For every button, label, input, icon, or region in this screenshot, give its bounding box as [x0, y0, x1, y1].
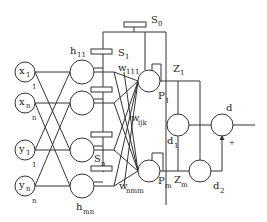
svg-text:n: n — [26, 185, 31, 193]
svg-text:S: S — [94, 153, 101, 164]
svg-text:S: S — [118, 47, 125, 58]
hidden-layer — [70, 60, 94, 198]
svg-text:d: d — [167, 135, 174, 146]
svg-text:x: x — [19, 96, 25, 107]
svg-text:1: 1 — [125, 53, 129, 61]
svg-text:P: P — [158, 90, 165, 101]
switch-box-s2 — [91, 87, 112, 92]
svg-text:x: x — [19, 65, 25, 76]
switch-box-s0 — [124, 22, 146, 27]
svg-text:0: 0 — [158, 20, 162, 28]
svg-text:h: h — [76, 201, 83, 212]
svg-text:1: 1 — [32, 83, 36, 91]
svg-text:n: n — [32, 114, 37, 122]
svg-text:n: n — [32, 197, 37, 205]
svg-text:1: 1 — [165, 97, 169, 105]
node-d2: d 2 — [189, 160, 224, 195]
input-node-xn: x n n — [15, 93, 37, 122]
hidden-label-hmn: h mn — [76, 201, 95, 216]
svg-text:Z: Z — [174, 174, 181, 185]
switch-label-s0: S 0 — [151, 14, 162, 28]
switch-box-s3 — [91, 132, 112, 137]
hidden-node-3 — [70, 138, 94, 162]
hidden-node-1 — [70, 60, 94, 84]
svg-text:S: S — [151, 14, 158, 25]
svg-text:m: m — [181, 181, 188, 189]
svg-text:Z: Z — [173, 63, 180, 74]
weight-label-wijk: w ijk — [131, 112, 147, 127]
svg-text:n: n — [101, 160, 106, 168]
d2-to-d-line — [211, 136, 222, 171]
svg-text:111: 111 — [126, 68, 139, 76]
svg-text:d: d — [213, 180, 220, 191]
z-label-zm: Z m — [174, 174, 188, 189]
weight-label-wnmm: w nmm — [119, 180, 144, 195]
switch-label-s1: S 1 — [118, 47, 129, 61]
input-node-yn: y n n — [15, 176, 37, 205]
svg-text:y: y — [18, 179, 25, 190]
svg-text:nmm: nmm — [126, 187, 144, 195]
svg-text:d: d — [226, 102, 233, 113]
input-node-y1: y 1 1 — [15, 140, 36, 169]
svg-text:2: 2 — [220, 187, 224, 195]
weight-label-w111: w 111 — [118, 62, 139, 76]
node-d-output: d — [211, 102, 233, 136]
svg-text:m: m — [165, 182, 172, 190]
output-node-p1: P 1 — [138, 64, 169, 105]
svg-text:1: 1 — [32, 161, 36, 169]
svg-text:ijk: ijk — [138, 119, 147, 127]
svg-text:11: 11 — [77, 51, 86, 59]
svg-text:h: h — [70, 45, 77, 56]
svg-text:P: P — [158, 175, 165, 186]
switch-box-s1 — [91, 49, 112, 54]
node-d1: d 1 — [167, 114, 189, 150]
z-label-z1: Z 1 — [173, 63, 184, 77]
hidden-label-h11: h 11 — [70, 45, 86, 59]
svg-text:1: 1 — [180, 69, 184, 77]
plus-sign: + — [229, 139, 235, 147]
svg-text:mn: mn — [83, 208, 95, 216]
hidden-node-2 — [70, 91, 94, 115]
input-hidden-connections — [35, 72, 70, 186]
svg-text:1: 1 — [26, 71, 30, 79]
svg-text:1: 1 — [174, 142, 178, 150]
svg-text:n: n — [26, 102, 31, 110]
hidden-node-4 — [70, 174, 94, 198]
input-node-x1: x 1 1 — [15, 62, 36, 91]
svg-text:y: y — [18, 143, 25, 154]
svg-text:1: 1 — [26, 149, 30, 157]
neural-network-diagram: x 1 1 x n n y 1 1 y n n h 11 h mn — [0, 0, 267, 222]
